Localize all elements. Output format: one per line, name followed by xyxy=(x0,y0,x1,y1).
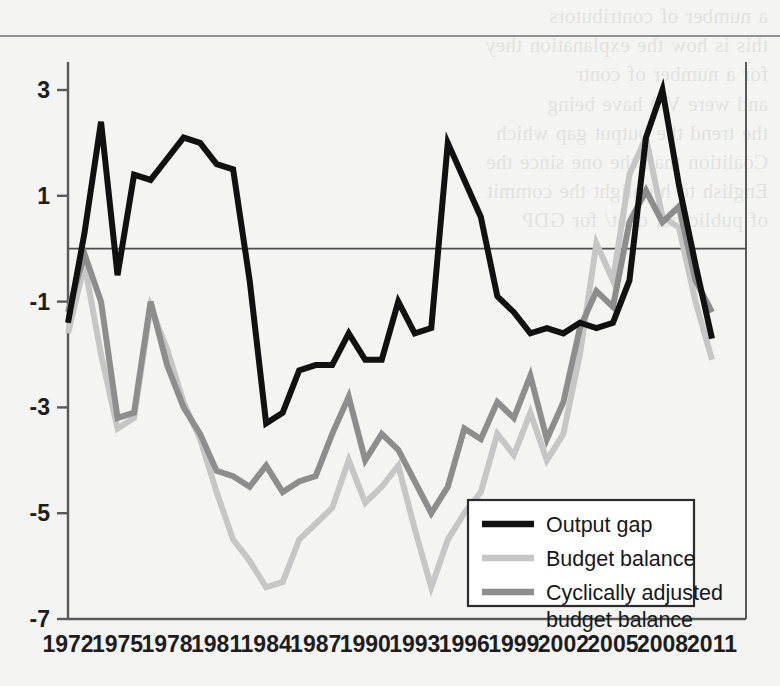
x-tick-label: 1984 xyxy=(241,631,292,657)
legend-label: Budget balance xyxy=(546,547,695,571)
y-tick-label: -1 xyxy=(30,289,51,315)
x-tick-label: 1972 xyxy=(42,631,93,657)
y-tick-label: -7 xyxy=(30,606,50,632)
x-tick-label: 1981 xyxy=(191,631,242,657)
y-tick-label: -5 xyxy=(30,500,51,526)
legend-label: Output gap xyxy=(546,513,652,537)
x-tick-label: 1999 xyxy=(488,631,539,657)
x-tick-label: 1978 xyxy=(141,631,192,657)
series-line-cyclically-adjusted-budget-balance xyxy=(68,191,712,514)
x-tick-labels: 1972197519781981198419871990199319961999… xyxy=(42,631,737,657)
page-canvas: a number of contributors this is how the… xyxy=(0,0,780,686)
x-tick-label: 1996 xyxy=(439,631,490,657)
line-chart-figure: 31-1-3-5-7 19721975197819811984198719901… xyxy=(0,0,780,686)
y-tick-marks xyxy=(57,90,68,619)
chart-svg: 31-1-3-5-7 19721975197819811984198719901… xyxy=(0,0,780,686)
x-tick-label: 1987 xyxy=(290,631,341,657)
chart-legend[interactable]: Output gapBudget balanceCyclically adjus… xyxy=(468,500,723,632)
y-tick-label: 3 xyxy=(37,77,50,103)
x-tick-label: 1990 xyxy=(340,631,391,657)
x-tick-label: 2008 xyxy=(637,631,688,657)
x-tick-label: 2011 xyxy=(687,631,737,657)
x-tick-label: 1993 xyxy=(389,631,440,657)
y-tick-labels: 31-1-3-5-7 xyxy=(30,77,51,632)
x-tick-label: 1975 xyxy=(92,631,143,657)
x-tick-label: 2005 xyxy=(587,631,638,657)
y-tick-label: 1 xyxy=(37,183,50,209)
y-tick-label: -3 xyxy=(30,394,50,420)
x-tick-label: 2002 xyxy=(538,631,589,657)
